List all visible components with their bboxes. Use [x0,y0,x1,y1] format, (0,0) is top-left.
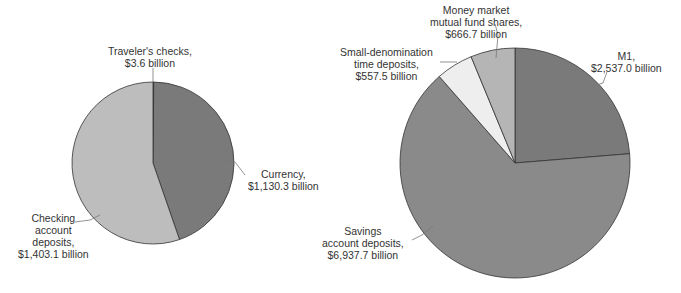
label-money-market: Money marketmutual fund shares,$666.7 bi… [430,4,522,40]
label-savings-deposits: Savingsaccount deposits,$6,937.7 billion [322,225,404,261]
label-travelers-checks: Traveler's checks,$3.6 billion [108,45,192,69]
m2-pie [400,48,630,278]
label-small-denomination: Small-denominationtime deposits,$557.5 b… [340,46,433,82]
label-m1: M1,$2,537.0 billion [591,50,662,74]
label-currency: Currency,$1,130.3 billion [248,168,319,192]
label-checking-deposits: Checkingaccountdeposits,$1,403.1 billion [18,212,89,260]
m1-pie [72,82,234,244]
